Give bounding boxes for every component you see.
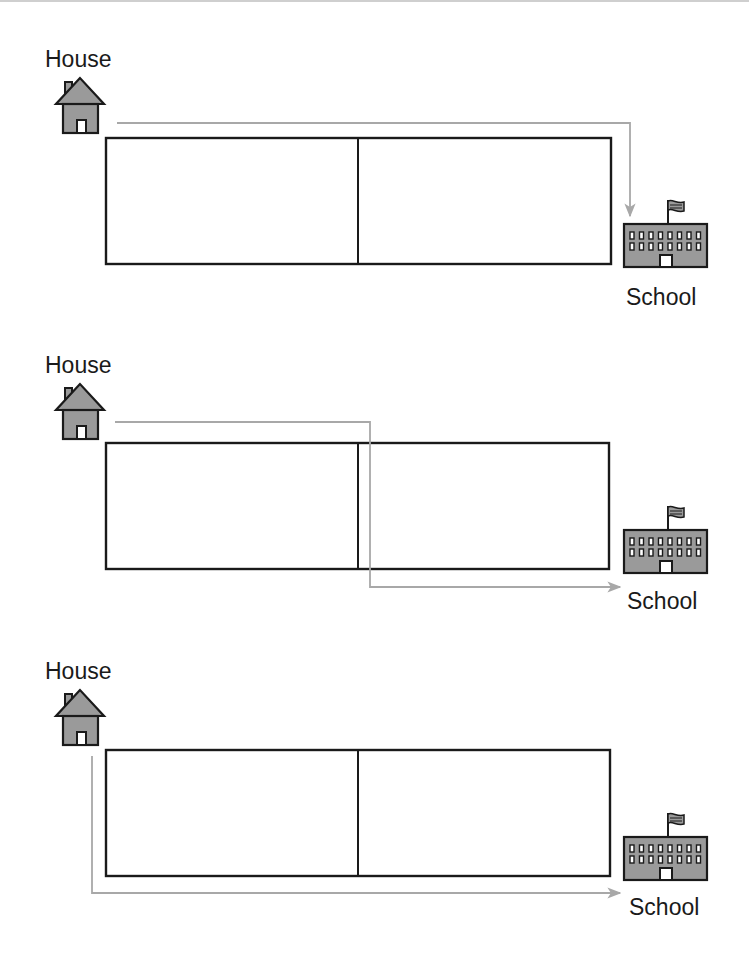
panel-3 — [56, 690, 707, 893]
school-icon — [624, 813, 707, 880]
panel-1 — [56, 78, 707, 267]
route-path — [115, 422, 620, 587]
school-icon — [624, 200, 707, 267]
panel-2 — [56, 384, 707, 587]
house-icon — [56, 78, 104, 133]
house-icon — [56, 690, 104, 745]
route-path — [92, 756, 620, 893]
route-diagram — [0, 0, 749, 962]
house-icon — [56, 384, 104, 439]
school-icon — [624, 506, 707, 573]
